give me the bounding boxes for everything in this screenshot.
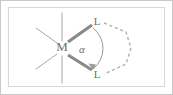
chemical-structure-diagram: M L L α [0, 0, 173, 95]
bite-angle-symbol: α [79, 43, 85, 55]
figure-frame: M L L α [0, 0, 173, 95]
inner-frame-border [9, 8, 165, 87]
atom-label-donor-bottom: L [94, 68, 101, 80]
atom-label-metal: M [56, 39, 68, 54]
atom-label-donor-top: L [94, 15, 101, 27]
